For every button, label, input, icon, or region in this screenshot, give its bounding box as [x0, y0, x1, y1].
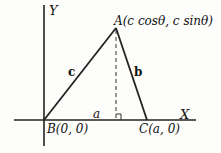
triangle-diagram: Y X A(c cosθ, c sinθ) B(0, 0) C(a, 0) c … [0, 0, 221, 153]
point-a-label: A(c cosθ, c sinθ) [114, 15, 213, 27]
point-b-label: B(0, 0) [47, 123, 88, 135]
right-angle-marker [116, 114, 121, 120]
x-axis-label: X [180, 108, 189, 121]
side-b-label: b [134, 66, 142, 78]
y-axis-label: Y [49, 4, 58, 17]
point-c-label: C(a, 0) [139, 123, 180, 135]
side-a-label: a [93, 108, 100, 120]
side-c-label: c [68, 66, 75, 78]
side-c [44, 28, 116, 120]
